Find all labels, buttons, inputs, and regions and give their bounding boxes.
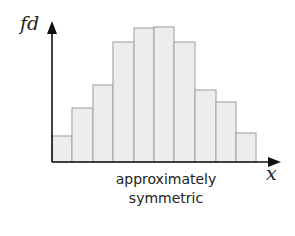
y-axis-arrow-icon [47, 21, 57, 34]
histogram-bar [113, 42, 134, 162]
x-axis-label: x [266, 162, 277, 184]
histogram-bar [216, 102, 236, 162]
histogram-bar [52, 136, 72, 162]
histogram-bar [154, 27, 174, 162]
histogram-chart: fd x approximately symmetric [0, 0, 295, 236]
chart-caption: approximately symmetric [96, 170, 236, 208]
histogram-bar [236, 133, 256, 162]
histogram-bar [72, 108, 93, 162]
caption-line-1: approximately [96, 170, 236, 189]
histogram-bar [93, 85, 113, 162]
histogram-bar [174, 42, 195, 162]
y-axis-label: fd [20, 12, 39, 34]
caption-line-2: symmetric [96, 189, 236, 208]
histogram-bar [134, 28, 154, 162]
histogram-bar [195, 90, 216, 162]
